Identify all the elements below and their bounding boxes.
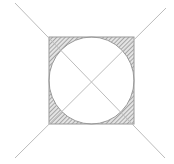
- geometry-diagram: [0, 0, 174, 164]
- diagonal-line-top-left-to-bottom-right: [15, 3, 165, 158]
